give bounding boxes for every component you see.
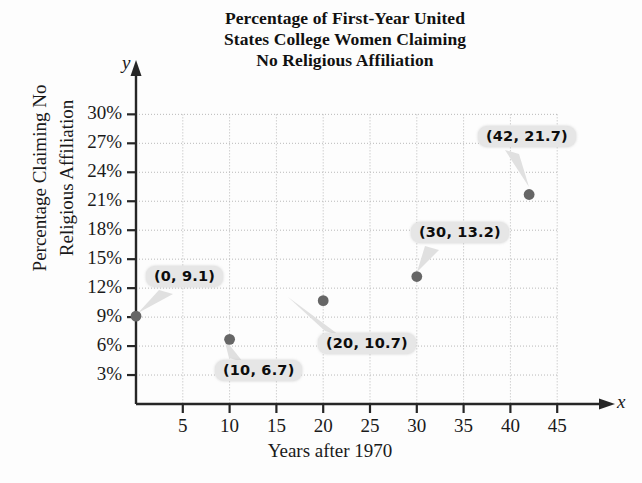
data-point: [318, 295, 329, 306]
x-tick-label: 20: [303, 415, 343, 437]
callout-tails: [138, 150, 529, 362]
data-point-label: (20, 10.7): [318, 333, 416, 354]
x-tick-label: 5: [163, 415, 203, 437]
callout-tail: [288, 297, 339, 335]
y-tick-label: 24%: [60, 160, 122, 182]
plot-area: [0, 0, 642, 483]
y-axis-arrowhead: [131, 60, 142, 76]
data-point: [131, 311, 142, 322]
grid-lines: [136, 114, 557, 404]
y-tick-label: 30%: [60, 102, 122, 124]
y-tick-label: 18%: [60, 218, 122, 240]
chart-figure: Percentage of First-Year United States C…: [0, 0, 642, 483]
x-tick-label: 45: [537, 415, 577, 437]
tick-marks: [127, 114, 557, 413]
axis-lines: [131, 60, 616, 410]
data-point: [524, 189, 535, 200]
x-tick-label: 30: [397, 415, 437, 437]
callout-tail: [138, 290, 173, 313]
y-tick-label: 21%: [60, 189, 122, 211]
x-axis-arrowhead: [599, 399, 615, 410]
x-tick-label: 40: [490, 415, 530, 437]
data-point-label: (10, 6.7): [215, 360, 302, 381]
y-tick-label: 15%: [60, 247, 122, 269]
y-tick-label: 3%: [60, 363, 122, 385]
y-tick-label: 6%: [60, 334, 122, 356]
y-tick-label: 27%: [60, 131, 122, 153]
y-tick-label: 9%: [60, 305, 122, 327]
callout-tail: [505, 150, 529, 187]
y-tick-label: 12%: [60, 276, 122, 298]
data-point-label: (30, 13.2): [411, 222, 509, 243]
data-point-label: (0, 9.1): [146, 266, 223, 287]
data-point: [224, 334, 235, 345]
data-point: [411, 271, 422, 282]
data-point-label: (42, 21.7): [478, 126, 576, 147]
x-tick-label: 35: [444, 415, 484, 437]
x-tick-label: 25: [350, 415, 390, 437]
callout-tail: [417, 246, 439, 272]
x-tick-label: 15: [256, 415, 296, 437]
x-tick-label: 10: [210, 415, 250, 437]
